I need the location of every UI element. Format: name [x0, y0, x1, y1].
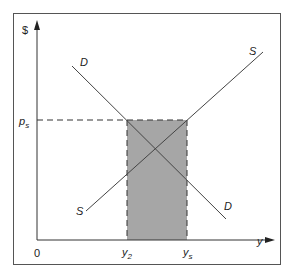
- supply-label-bottom: S: [76, 205, 84, 217]
- y-axis-label: $: [22, 24, 28, 36]
- x-axis-arrow-icon: [265, 237, 275, 243]
- supply-demand-diagram: $ y 0 D D S S ps y2 ys: [0, 0, 292, 276]
- qs-label: ys: [182, 246, 193, 261]
- demand-label-bottom: D: [224, 200, 232, 212]
- price-support-label: ps: [18, 115, 29, 130]
- supply-label-top: S: [249, 45, 257, 57]
- x-axis-label: y: [256, 235, 264, 247]
- origin-label: 0: [34, 247, 40, 259]
- q2-label: y2: [121, 246, 133, 261]
- y-axis-arrow-icon: [34, 20, 40, 30]
- demand-label-top: D: [80, 56, 88, 68]
